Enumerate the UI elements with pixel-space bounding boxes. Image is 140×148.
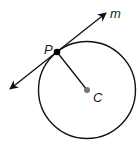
label-m: m xyxy=(110,6,121,21)
tangent-circle-diagram: m P C xyxy=(0,0,140,148)
label-c: C xyxy=(93,90,103,105)
radius-pc xyxy=(57,52,87,90)
label-p: P xyxy=(44,42,53,57)
point-p xyxy=(54,49,61,56)
center-point-c xyxy=(84,87,90,93)
